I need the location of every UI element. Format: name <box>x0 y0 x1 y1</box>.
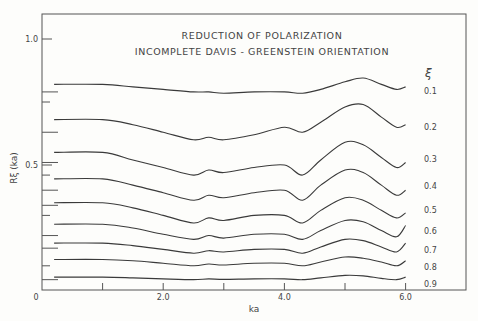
legend-title: ξ <box>424 66 432 80</box>
x-tick-label: 6.0 <box>399 293 412 302</box>
curve-xi-0.6 <box>54 220 405 240</box>
y-axis-label: Rξ (ka) <box>9 152 19 184</box>
curve-xi-0.2 <box>54 104 405 140</box>
curve-xi-0.3 <box>54 141 405 175</box>
curve-xi-0.8 <box>54 257 405 266</box>
curve-xi-0.9 <box>54 275 405 279</box>
x-axis-ticks: 02.04.06.0 <box>33 283 412 302</box>
x-tick-label: 0 <box>33 293 38 302</box>
chart-title: REDUCTION OF POLARIZATION <box>182 30 343 41</box>
series-label: 0.4 <box>424 182 437 191</box>
curve-xi-0.4 <box>54 169 405 200</box>
chart: 02.04.06.0 1.00.5 0.10.20.30.40.50.60.70… <box>0 0 478 321</box>
series-label: 0.9 <box>424 280 437 289</box>
series-label: 0.2 <box>424 123 437 132</box>
series-label: 0.5 <box>424 206 437 215</box>
series-label: 0.3 <box>424 155 437 164</box>
curve-xi-0.5 <box>54 197 405 223</box>
y-tick-label: 0.5 <box>25 161 38 170</box>
chart-subtitle: INCOMPLETE DAVIS - GREENSTEIN ORIENTATIO… <box>135 46 389 57</box>
series-label: 0.6 <box>424 227 437 236</box>
x-tick-label: 2.0 <box>157 293 170 302</box>
series-labels: 0.10.20.30.40.50.60.70.80.9 <box>424 87 437 289</box>
y-tick-label: 1.0 <box>25 35 38 44</box>
series-label: 0.1 <box>424 87 437 96</box>
curve-xi-0.1 <box>54 78 405 93</box>
x-axis-label: ka <box>249 304 260 314</box>
curve-xi-0.7 <box>54 239 405 253</box>
series-label: 0.8 <box>424 263 437 272</box>
series-label: 0.7 <box>424 246 437 255</box>
curves <box>54 78 405 280</box>
x-tick-label: 4.0 <box>278 293 291 302</box>
